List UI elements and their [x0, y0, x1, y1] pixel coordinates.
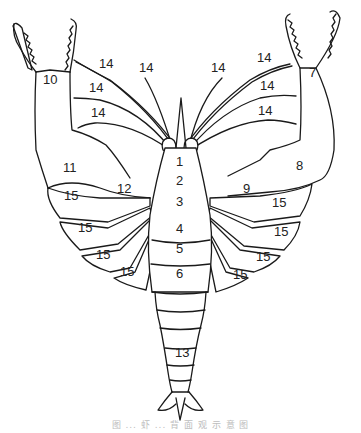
left-legs — [48, 188, 158, 290]
label-14: 14 — [89, 80, 103, 95]
label-15: 15 — [96, 247, 110, 262]
label-14: 14 — [260, 78, 274, 93]
label-14: 14 — [91, 105, 105, 120]
label-5: 5 — [176, 241, 183, 256]
label-9: 9 — [243, 181, 250, 196]
label-15: 15 — [272, 195, 286, 210]
label-14: 14 — [139, 60, 153, 75]
body — [148, 148, 211, 420]
label-11: 11 — [63, 160, 77, 175]
label-14: 14 — [258, 103, 272, 118]
label-13: 13 — [175, 345, 189, 360]
label-12: 12 — [117, 181, 131, 196]
figure-caption: 图 ... 虾 ... 背 面 观 示 意 图 — [0, 418, 361, 431]
label-1: 1 — [176, 154, 183, 169]
label-15: 15 — [233, 267, 247, 282]
label-8: 8 — [296, 158, 303, 173]
label-4: 4 — [176, 221, 183, 236]
label-15: 15 — [274, 224, 288, 239]
right-legs — [204, 184, 312, 292]
label-15: 15 — [256, 249, 270, 264]
shrimp-diagram: 1 2 3 4 5 6 7 8 9 10 11 12 13 14 14 14 1… — [0, 0, 361, 433]
label-14: 14 — [99, 56, 113, 71]
label-14: 14 — [257, 50, 271, 65]
label-15: 15 — [64, 188, 78, 203]
label-2: 2 — [176, 173, 183, 188]
left-claw — [13, 19, 150, 200]
label-15: 15 — [78, 220, 92, 235]
label-7: 7 — [309, 65, 316, 80]
label-10: 10 — [43, 72, 57, 87]
label-14: 14 — [211, 60, 225, 75]
label-15: 15 — [120, 264, 134, 279]
label-3: 3 — [176, 194, 183, 209]
label-6: 6 — [176, 266, 183, 281]
